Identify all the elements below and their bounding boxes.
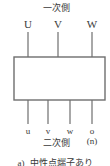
secondary-terminal-label-w: w <box>67 127 74 136</box>
caption-letter: a) <box>18 158 25 166</box>
secondary-side-label: 二次側 <box>43 139 70 148</box>
caption-text: 中性点端子あり <box>30 158 93 166</box>
secondary-terminal-label-v: v <box>46 127 51 136</box>
transformer-body-box <box>14 57 105 100</box>
primary-terminal-label-w: W <box>87 19 97 30</box>
transformer-winding-diagram: 一次側 U V W u v w o (n) 二次側 a)中性点端子あり <box>0 0 110 166</box>
primary-terminal-label-u: U <box>24 19 32 30</box>
primary-terminal-label-v: V <box>54 19 62 30</box>
primary-side-label: 一次側 <box>43 4 70 13</box>
figure-caption: a)中性点端子あり <box>18 153 93 166</box>
neutral-terminal-sublabel: (n) <box>87 137 98 146</box>
secondary-terminal-label-u: u <box>26 127 31 136</box>
secondary-terminal-label-o: o <box>90 127 95 136</box>
